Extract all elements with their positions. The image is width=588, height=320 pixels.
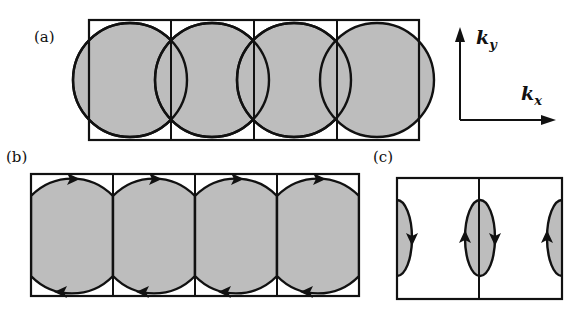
ky-arrow-icon <box>455 27 465 42</box>
panel-c: (c) <box>373 148 577 299</box>
kx-arrow-icon <box>541 115 556 125</box>
panel-b-label: (b) <box>6 148 27 166</box>
panel-c-label: (c) <box>373 148 393 166</box>
panel-a-label: (a) <box>34 28 55 46</box>
k-axes: ky kx <box>455 26 556 125</box>
fermi-surface-diagram: (a) ky kx (b) <box>0 0 588 320</box>
panel-b: (b) <box>6 148 359 298</box>
panel-a: (a) <box>34 20 434 140</box>
panel-c-zones <box>397 178 562 299</box>
kx-label: kx <box>521 82 542 108</box>
ky-label: ky <box>476 26 498 52</box>
